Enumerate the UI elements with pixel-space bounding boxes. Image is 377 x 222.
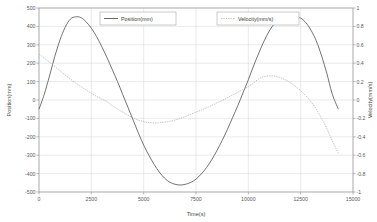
x-tick-label: 10000 xyxy=(241,196,256,202)
y-left-tick-label: -100 xyxy=(25,115,35,121)
y-right-tick-label: 0.4 xyxy=(357,60,364,66)
y-axis-left-title: Position(mm) xyxy=(6,83,12,116)
x-tick-label: 15000 xyxy=(346,196,361,202)
y-right-tick-label: 0.8 xyxy=(357,23,364,29)
x-tick-label: 12500 xyxy=(293,196,308,202)
y-left-tick-label: 0 xyxy=(33,97,36,103)
y-right-tick-label: 0 xyxy=(357,97,360,103)
x-axis-title: Time(s) xyxy=(187,211,206,217)
y-left-tick-label: -300 xyxy=(25,152,35,158)
y-left-tick-label: 300 xyxy=(27,42,36,48)
y-right-tick-label: -0.4 xyxy=(357,134,366,140)
y-right-tick-label: 1 xyxy=(357,5,360,11)
x-tick-label: 0 xyxy=(38,196,41,202)
y-left-tick-label: 100 xyxy=(27,79,36,85)
y-left-tick-label: 200 xyxy=(27,60,36,66)
y-right-tick-label: 0.6 xyxy=(357,42,364,48)
y-left-tick-label: -400 xyxy=(25,171,35,177)
y-right-tick-label: -0.2 xyxy=(357,115,366,121)
legend-item-position[interactable]: Position(mm) xyxy=(100,12,176,25)
y-right-tick-label: 0.2 xyxy=(357,79,364,85)
x-tick-label: 7500 xyxy=(190,196,202,202)
y-right-tick-label: -0.6 xyxy=(357,152,366,158)
legend-label: Position(mm) xyxy=(121,16,153,22)
y-left-tick-label: 400 xyxy=(27,23,36,29)
y-left-tick-label: -500 xyxy=(25,189,35,195)
y-left-tick-label: -200 xyxy=(25,134,35,140)
legend-label: Velocity(mm/s) xyxy=(238,16,274,22)
y-left-tick-label: 500 xyxy=(27,5,36,11)
y-right-tick-label: -1 xyxy=(357,189,362,195)
legend-item-velocity[interactable]: Velocity(mm/s) xyxy=(217,12,299,25)
x-tick-label: 5000 xyxy=(138,196,150,202)
chart-container: 0250050007500100001250015000 50040030020… xyxy=(0,0,377,222)
y-right-tick-label: -0.8 xyxy=(357,171,366,177)
dual-axis-line-chart: 0250050007500100001250015000 50040030020… xyxy=(0,0,377,222)
chart-background xyxy=(0,0,377,222)
x-tick-label: 2500 xyxy=(86,196,98,202)
y-axis-right-title: Velocity(mm/s) xyxy=(367,82,373,119)
